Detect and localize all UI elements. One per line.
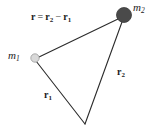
equation-term2-subscript: 1 [68,16,72,24]
mass-label-m1-symbol: m [8,49,16,61]
mass-marker-m1 [31,54,39,62]
vector-equation-label: r=r2−r1 [31,12,71,22]
mass-label-m1: m1 [8,50,20,61]
vector-label-r1: r1 [44,90,52,100]
mass-marker-m2 [117,8,132,23]
mass-label-m2: m2 [133,2,145,13]
figure-background [0,0,155,131]
mass-label-m1-subscript: 1 [16,54,20,63]
vector-diagram-figure: m1 m2 r=r2−r1 r1 r2 [0,0,155,131]
mass-label-m2-subscript: 2 [141,6,145,15]
equation-lhs: r [31,11,36,22]
equation-operator: − [55,11,61,22]
vector-label-r2: r2 [117,67,125,77]
equation-term1-subscript: 2 [50,16,54,24]
mass-label-m2-symbol: m [133,1,141,13]
diagram-canvas [0,0,155,131]
vector-label-r1-subscript: 1 [48,94,52,102]
equation-equals: = [38,11,44,22]
vector-label-r2-subscript: 2 [121,71,125,79]
